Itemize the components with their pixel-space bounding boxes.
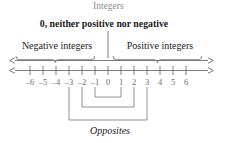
figure-title-integers: Integers: [93, 2, 124, 12]
negative-integers-label: Negative integers: [22, 41, 92, 51]
integers-number-line-figure: Integers 0, neither positive nor negativ…: [0, 0, 252, 143]
tick-label--4: –4: [52, 78, 61, 87]
tick-label-5: 5: [171, 78, 175, 87]
tick-label-2: 2: [132, 78, 136, 87]
tick-label-3: 3: [145, 78, 149, 87]
opposites-bracket-1: [95, 87, 121, 97]
opposites-bracket-3: [69, 87, 147, 120]
opposites-brackets-group: [69, 87, 147, 120]
tick-label-4: 4: [158, 78, 162, 87]
zero-annotation-label: 0, neither positive nor negative: [40, 19, 168, 29]
tick-label--1: –1: [91, 78, 100, 87]
opposites-label: Opposites: [90, 126, 130, 136]
tick-label--5: –5: [39, 78, 48, 87]
tick-label--3: –3: [65, 78, 74, 87]
tick-label-6: 6: [184, 78, 188, 87]
tick-label--6: –6: [26, 78, 35, 87]
positive-integers-brace: [113, 57, 202, 63]
negative-integers-brace: [16, 57, 95, 63]
tick-label--2: –2: [78, 78, 87, 87]
tick-label-1: 1: [119, 78, 123, 87]
positive-integers-label: Positive integers: [127, 41, 193, 51]
tick-label-0: 0: [106, 78, 110, 87]
